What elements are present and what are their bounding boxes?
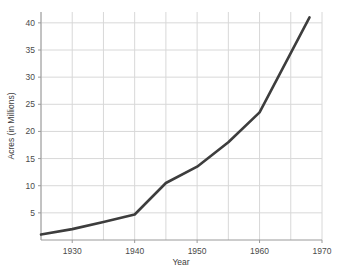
x-tick-label: 1930: [63, 246, 82, 256]
x-tick-label: 1960: [250, 246, 269, 256]
x-tick-label: 1940: [125, 246, 144, 256]
y-tick-label: 15: [26, 154, 36, 164]
chart-background: [0, 0, 337, 271]
y-tick-label: 25: [26, 99, 36, 109]
y-tick-label: 10: [26, 181, 36, 191]
y-tick-label: 40: [26, 18, 36, 28]
x-axis-title: Year: [172, 257, 189, 267]
line-chart: 510152025303540 19301940195019601970 Yea…: [0, 0, 337, 271]
y-tick-label: 35: [26, 45, 36, 55]
x-tick-label: 1950: [188, 246, 207, 256]
y-tick-label: 5: [30, 208, 35, 218]
x-tick-label: 1970: [313, 246, 332, 256]
y-axis-title: Acres (in Millions): [6, 92, 16, 159]
chart-canvas: 510152025303540 19301940195019601970 Yea…: [0, 0, 337, 271]
y-tick-label: 20: [26, 126, 36, 136]
y-tick-label: 30: [26, 72, 36, 82]
